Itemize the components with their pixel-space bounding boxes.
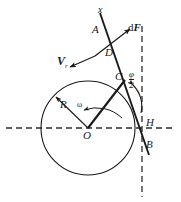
label-phi-numerator: φ — [129, 70, 134, 79]
label-vector-v: Vr — [57, 55, 68, 70]
label-angle-phi-over-two: φ 2 — [129, 70, 134, 91]
label-point-d: D — [105, 47, 113, 58]
label-df-f: F — [134, 21, 141, 33]
label-angular-velocity-omega: ω — [77, 101, 82, 109]
label-point-a: A — [92, 24, 99, 35]
geometry-diagram — [0, 0, 181, 202]
vector-v — [70, 56, 95, 67]
label-axis-x: x — [98, 5, 102, 15]
label-v-subscript: r — [65, 62, 68, 70]
figure-container: x A D C R O H B ω dF Vr φ 2 — [0, 0, 181, 202]
label-v-symbol: V — [57, 54, 65, 68]
radius-oc — [88, 80, 125, 128]
label-two-denominator: 2 — [129, 81, 134, 90]
label-point-b: B — [146, 139, 153, 150]
label-point-c: C — [115, 71, 122, 82]
label-point-h: H — [146, 117, 154, 128]
label-point-o: O — [83, 130, 91, 141]
label-vector-df: dF — [128, 22, 141, 33]
line-ab — [100, 13, 149, 155]
angle-arc-phi-half — [133, 85, 142, 113]
label-radius-r: R — [60, 99, 67, 110]
